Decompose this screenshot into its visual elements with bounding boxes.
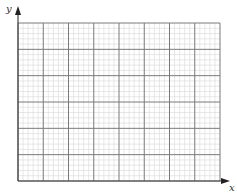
graph-paper-diagram: y x bbox=[0, 0, 237, 193]
y-axis-arrowhead-icon bbox=[15, 6, 21, 15]
axes bbox=[15, 6, 230, 184]
y-axis-label: y bbox=[5, 3, 12, 14]
x-axis-label: x bbox=[229, 182, 235, 193]
